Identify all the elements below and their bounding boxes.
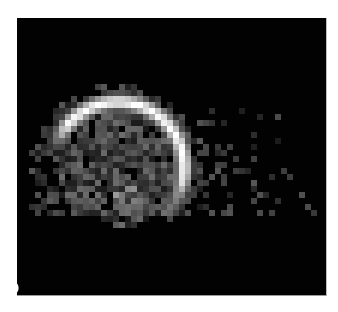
panel-label: (b) — [0, 282, 20, 294]
intensity-map-image — [17, 18, 326, 295]
figure-panel — [17, 18, 327, 296]
